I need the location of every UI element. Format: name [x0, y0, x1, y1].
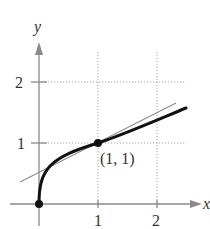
x-tick-label-2: 2: [152, 212, 160, 229]
x-axis-arrow-icon: [190, 200, 202, 208]
y-axis-arrow-icon: [35, 42, 43, 55]
y-tick-label-1: 1: [17, 135, 25, 152]
point-origin: [35, 200, 43, 208]
point-1-1: [94, 139, 102, 147]
x-axis-label: x: [202, 195, 210, 212]
gridlines: [39, 52, 186, 204]
chart: y x 2 1 1 2 (1, 1): [0, 0, 210, 229]
x-tick-label-1: 1: [94, 212, 102, 229]
point-label: (1, 1): [100, 150, 135, 168]
y-tick-label-2: 2: [15, 74, 23, 91]
y-axis-label: y: [32, 18, 42, 36]
